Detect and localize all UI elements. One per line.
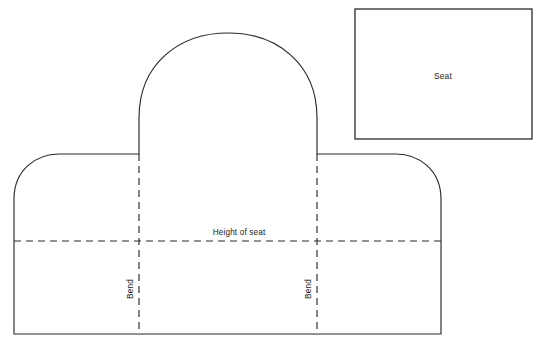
bend-label-left: Bend xyxy=(126,279,135,299)
height-of-seat-label: Height of seat xyxy=(213,228,266,237)
bend-label-right: Bend xyxy=(304,279,313,299)
cover-outline-path xyxy=(14,33,441,334)
pattern-diagram-canvas: Seat Height of seat Bend Bend xyxy=(0,0,546,352)
diagram-root: Seat Height of seat Bend Bend xyxy=(0,0,546,352)
seat-label: Seat xyxy=(434,71,452,81)
